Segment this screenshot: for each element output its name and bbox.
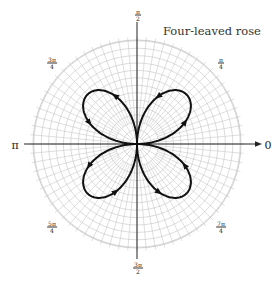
angle-label-denominator: 2 [136,269,140,275]
label-zero: 0 [265,139,272,152]
angle-label-5pi-over-4: 5π4 [47,221,57,234]
angle-label-3pi-over-2: 3π2 [133,262,143,275]
angle-label-7pi-over-4: 7π4 [216,221,226,234]
figure-title: Four-leaved rose [163,24,261,38]
angle-label-pi-over-4: π4 [218,57,224,70]
angle-label-denominator: 4 [50,228,54,234]
angle-label-denominator: 4 [50,64,54,70]
polar-rose-figure [0,0,280,282]
angle-label-denominator: 4 [219,64,223,70]
angle-label-denominator: 2 [136,16,140,22]
angle-label-denominator: 4 [219,228,223,234]
angle-label-pi-over-2: π2 [135,9,141,22]
label-pi: π [11,139,18,152]
angle-label-3pi-over-4: 3π4 [47,57,57,70]
